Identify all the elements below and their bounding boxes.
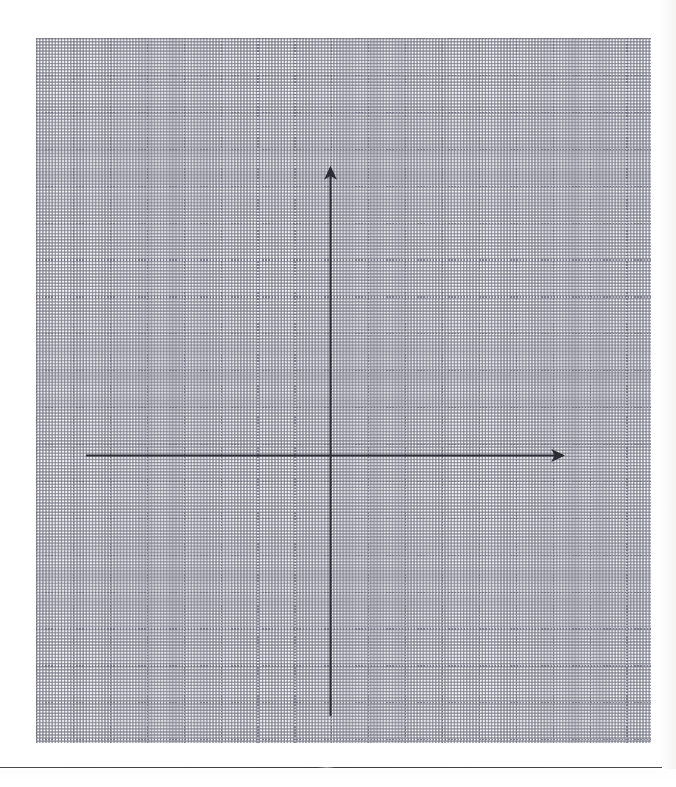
grid-major-horizontal-line <box>36 481 651 482</box>
grid-major-horizontal-line <box>36 592 651 593</box>
grid-major-vertical-line <box>553 38 554 743</box>
grid-major-horizontal-line <box>36 75 651 76</box>
grid-major-horizontal-line <box>36 739 651 740</box>
grid-major-horizontal-line <box>36 186 651 187</box>
grid-major-horizontal-line <box>36 149 651 150</box>
grid-major-horizontal-line <box>36 518 651 519</box>
grid-major-horizontal-line <box>36 444 651 445</box>
grid-major-vertical-line <box>626 38 627 743</box>
grid-major-horizontal-line <box>36 333 651 334</box>
grid-major-vertical-line <box>331 38 332 743</box>
grid-major-vertical-line <box>590 38 591 743</box>
grid-major-horizontal-line <box>36 665 651 666</box>
grid-major-vertical-line <box>184 38 185 743</box>
grid-major-horizontal-line <box>36 370 651 371</box>
grid-major-vertical-line <box>73 38 74 743</box>
grid-major-vertical-line <box>516 38 517 743</box>
grid-major-vertical-line <box>442 38 443 743</box>
grid-major-horizontal-line <box>36 296 651 297</box>
grid-major-horizontal-line <box>36 223 651 224</box>
graph-paper-page <box>0 0 676 787</box>
grid-major-vertical-line <box>36 38 37 743</box>
grid-major-horizontal-line <box>36 38 651 39</box>
bottom-shading <box>0 769 676 787</box>
grid-major-vertical-line <box>110 38 111 743</box>
grid-major-horizontal-line <box>36 407 651 408</box>
grid-major-vertical-line <box>221 38 222 743</box>
grid-major-horizontal-line <box>36 259 651 260</box>
grid-major-horizontal-line <box>36 555 651 556</box>
graph-paper-grid <box>36 38 651 743</box>
grid-major-horizontal-line <box>36 702 651 703</box>
grid-major-vertical-line <box>257 38 258 743</box>
grid-major-horizontal-line <box>36 112 651 113</box>
grid-major-vertical-line <box>147 38 148 743</box>
grid-major-vertical-line <box>405 38 406 743</box>
grid-major-vertical-line <box>368 38 369 743</box>
grid-major-horizontal-line <box>36 628 651 629</box>
grid-major-vertical-line <box>479 38 480 743</box>
paper-right-edge <box>660 0 676 787</box>
grid-major-vertical-line <box>294 38 295 743</box>
